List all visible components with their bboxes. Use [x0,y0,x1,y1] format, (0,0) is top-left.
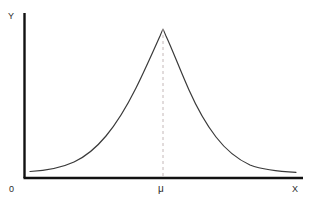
plot-canvas [0,0,311,202]
normal-distribution-figure: Y 0 μ X [0,0,311,202]
mean-tick-label: μ [158,184,164,194]
y-axis-label: Y [8,11,14,21]
x-axis-label: X [292,184,298,194]
origin-label: 0 [9,184,14,194]
